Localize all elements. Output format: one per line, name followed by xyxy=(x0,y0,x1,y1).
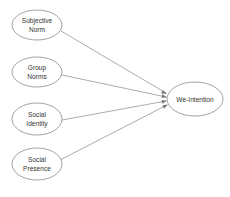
node-label: We-Intention xyxy=(176,96,214,103)
edge-social-presence-to-we-intention xyxy=(60,105,167,160)
node-social-presence: Social Presence xyxy=(12,148,62,180)
node-group-norms: Group Norms xyxy=(12,57,62,87)
research-model-diagram: Subjective Norm Group Norms Social Ident… xyxy=(0,0,230,197)
node-label-line2: Norms xyxy=(27,73,47,80)
edge-subjective-norm-to-we-intention xyxy=(61,31,166,93)
node-label-line2: Presence xyxy=(23,165,51,172)
arrowhead-icon xyxy=(162,94,168,98)
edge-social-identity-to-we-intention xyxy=(62,101,166,120)
node-label-line2: Norm xyxy=(29,26,46,33)
edge-group-norms-to-we-intention xyxy=(62,75,166,97)
edges xyxy=(60,31,168,160)
node-label-line1: Subjective xyxy=(22,17,53,25)
arrowhead-icon xyxy=(162,105,168,109)
node-label-line1: Social xyxy=(28,111,46,118)
node-subjective-norm: Subjective Norm xyxy=(12,10,62,40)
node-we-intention: We-Intention xyxy=(167,82,223,116)
node-social-identity: Social Identity xyxy=(12,103,62,135)
arrowhead-icon xyxy=(162,100,167,104)
node-label-line2: Identity xyxy=(26,120,48,128)
node-label-line1: Group xyxy=(28,64,47,72)
node-label-line1: Social xyxy=(28,156,46,163)
